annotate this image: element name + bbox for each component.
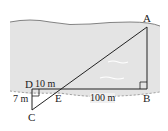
label-point-D: D (25, 79, 33, 90)
label-point-C: C (28, 112, 35, 123)
label-EB-length: 100 m (90, 93, 115, 103)
label-point-E: E (55, 93, 62, 104)
label-DE-length: 10 m (35, 79, 55, 89)
river-width-diagram: A B C D E 10 m 100 m 7 m (0, 0, 168, 131)
label-point-A: A (143, 13, 151, 24)
label-point-B: B (143, 93, 150, 104)
label-DC-length: 7 m (13, 94, 28, 104)
